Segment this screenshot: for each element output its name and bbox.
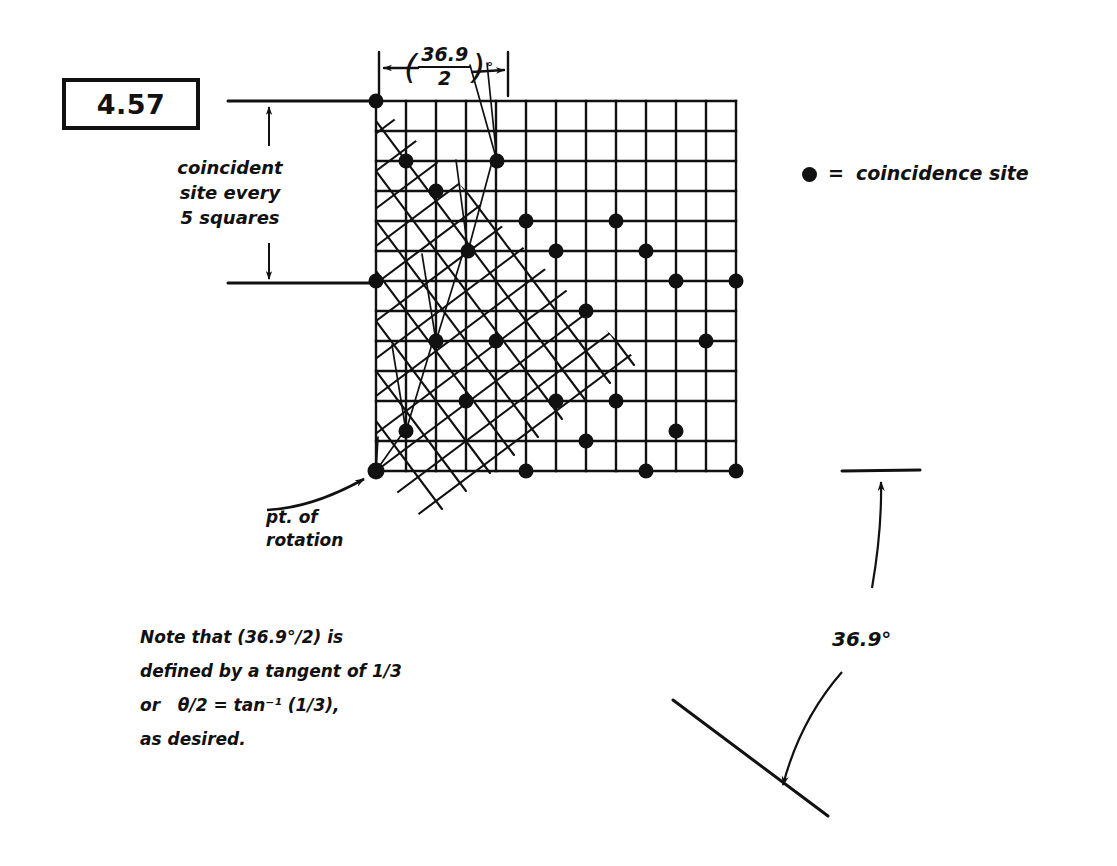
full-angle-label: 36.9° [832, 626, 891, 654]
base-square-grid [376, 101, 736, 471]
note-line-1: Note that (36.9°/2) is [140, 626, 343, 649]
horizontal-reference-line [842, 470, 920, 471]
half-angle-denominator: 2 [435, 68, 454, 89]
half-angle-close-paren: ) [472, 50, 485, 84]
pt-of-rotation-label: pt. of rotation [266, 506, 396, 553]
legend-label: coincidence site [856, 160, 1029, 186]
half-angle-label: ( 36.9 2 ) ° [404, 45, 493, 89]
note-line-4: as desired. [140, 728, 246, 751]
diagram-sheet: 4.57 [0, 0, 1117, 866]
half-angle-numerator: 36.9 [418, 45, 471, 68]
half-angle-open-paren: ( [404, 50, 417, 84]
rotated-reference-line [673, 700, 828, 816]
note-line-3: or θ/2 = tan⁻¹ (1/3), [140, 694, 340, 717]
coincidence-dot-icon [802, 167, 817, 182]
note-line-2: defined by a tangent of 1/3 [140, 660, 402, 683]
coincident-site-annotation: coincident site every 5 squares [140, 156, 320, 230]
angle-leader-down [783, 672, 842, 785]
angle-leader-up [872, 482, 881, 588]
half-angle-degree-symbol: ° [486, 59, 493, 74]
legend-equals: = [828, 160, 844, 186]
